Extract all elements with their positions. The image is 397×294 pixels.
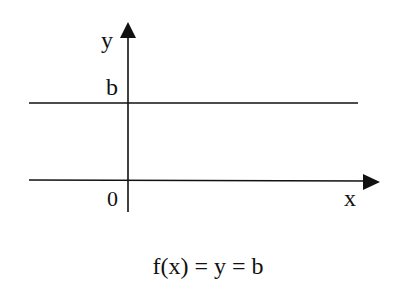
y-axis-arrow-icon — [120, 22, 136, 38]
x-axis-arrow-icon — [363, 174, 380, 190]
constant-function-diagram: y b 0 x f(x) = y = b — [0, 0, 397, 294]
x-axis — [29, 180, 366, 181]
b-label: b — [106, 74, 118, 100]
y-axis-label: y — [101, 27, 113, 53]
x-axis-label: x — [344, 185, 356, 211]
formula: f(x) = y = b — [152, 253, 263, 279]
origin-label: 0 — [107, 186, 118, 211]
